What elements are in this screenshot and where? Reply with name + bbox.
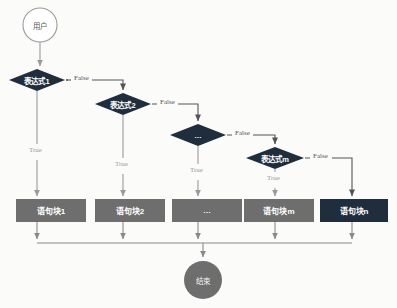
node-block-ellipsis[interactable] — [172, 199, 242, 222]
node-decision-ellipsis[interactable] — [170, 124, 226, 146]
flowchart-svg — [0, 0, 397, 308]
node-start-circle[interactable] — [23, 8, 57, 42]
node-decision-expr2[interactable] — [95, 93, 151, 115]
edge-ellipsis-false — [227, 135, 275, 144]
node-end-circle[interactable] — [184, 261, 222, 299]
edge-exprm-false — [305, 158, 352, 196]
flowchart-canvas: 用户 表达式1 表达式2 … 表达式m 语句块1 语句块2 … 语句块m 语句块… — [0, 0, 397, 308]
edge-merge-bus — [37, 222, 352, 257]
edge-expr2-false — [152, 104, 198, 121]
node-block-n[interactable] — [320, 199, 388, 222]
node-block-2[interactable] — [95, 199, 165, 222]
node-block-1[interactable] — [16, 199, 86, 222]
edge-expr1-false — [66, 80, 123, 90]
node-decision-exprm[interactable] — [246, 147, 304, 169]
node-decision-expr1[interactable] — [9, 69, 65, 91]
node-block-m[interactable] — [244, 199, 314, 222]
